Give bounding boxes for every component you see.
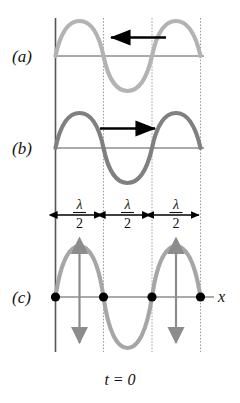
node-dot (51, 292, 60, 301)
node-dot (99, 292, 108, 301)
standing-wave-figure: (a) (b) λ 2 λ 2 λ 2 (0, 0, 240, 403)
node-dot (147, 292, 156, 301)
panel-a-label: (a) (12, 47, 32, 66)
node-dot (196, 292, 205, 301)
ruler-denominator: 2 (124, 216, 131, 231)
figure-caption: t = 0 (104, 371, 135, 388)
ruler-denominator: 2 (173, 216, 180, 231)
ruler-numerator: λ (123, 197, 130, 212)
panel-b-label: (b) (12, 139, 32, 158)
ruler-numerator: λ (172, 197, 179, 212)
ruler-denominator: 2 (76, 216, 83, 231)
panel-c-label: (c) (12, 288, 31, 307)
x-axis-label: x (217, 288, 225, 305)
ruler-numerator: λ (75, 197, 82, 212)
